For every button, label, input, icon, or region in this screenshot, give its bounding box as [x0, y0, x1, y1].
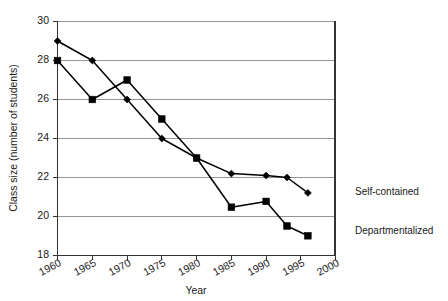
y-tickmarks [53, 22, 58, 256]
series-line-self-contained [58, 41, 308, 193]
x-tick-label: 2000 [315, 256, 341, 278]
series-self-contained [54, 38, 311, 197]
y-axis-title: Class size (number of students) [7, 64, 19, 212]
y-tick-labels: 30 28 26 24 22 20 18 [37, 14, 49, 260]
series-annotations: Self-contained Departmentalized [355, 186, 433, 236]
series-markers-departmentalized [54, 57, 311, 239]
y-tick-label: 22 [37, 170, 49, 182]
x-tick-label: 1975 [141, 256, 167, 278]
x-tick-label: 1980 [176, 256, 202, 278]
series-line-departmentalized [58, 61, 308, 236]
chart-canvas: 30 28 26 24 22 20 18 1960 1965 1970 1975… [0, 0, 448, 301]
y-tick-label: 20 [37, 209, 49, 221]
y-tick-label: 26 [37, 92, 49, 104]
y-tick-label: 18 [37, 248, 49, 260]
x-axis-title: Year [185, 284, 207, 296]
x-tick-label: 1965 [71, 256, 97, 278]
x-tick-label: 1985 [211, 256, 237, 278]
annotation-self-contained: Self-contained [355, 186, 419, 197]
x-tick-label: 1990 [245, 256, 271, 278]
x-tick-labels: 1960 1965 1970 1975 1980 1985 1990 1995 … [37, 256, 341, 278]
x-tick-label: 1995 [280, 256, 306, 278]
series-markers-self-contained [54, 38, 311, 197]
y-tick-label: 24 [37, 131, 49, 143]
class-size-line-chart: 30 28 26 24 22 20 18 1960 1965 1970 1975… [0, 0, 448, 301]
annotation-departmentalized: Departmentalized [355, 225, 433, 236]
y-tick-label: 28 [37, 53, 49, 65]
series-departmentalized [54, 57, 311, 239]
gridlines-group [57, 22, 335, 217]
y-tick-label: 30 [37, 14, 49, 26]
x-tick-label: 1970 [106, 256, 132, 278]
